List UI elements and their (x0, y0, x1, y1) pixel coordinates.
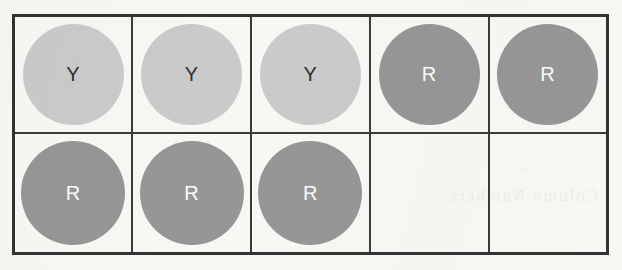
cell-inner (490, 134, 606, 252)
token-red[interactable]: R (497, 24, 598, 125)
table-row: Y Y Y R (14, 16, 608, 133)
token-yellow[interactable]: Y (141, 24, 242, 125)
grid-cell-r1c4[interactable] (489, 133, 608, 254)
grid-cell-r1c0[interactable]: R (14, 133, 133, 254)
cell-inner: Y (15, 17, 131, 132)
grid-cell-r1c3[interactable] (370, 133, 489, 254)
token-grid: Y Y Y R (12, 14, 609, 255)
token-yellow[interactable]: Y (23, 24, 124, 125)
token-red[interactable]: R (379, 24, 480, 125)
cell-inner: R (15, 134, 131, 252)
cell-inner: Y (133, 17, 250, 132)
cell-inner: R (252, 134, 369, 252)
cell-inner: R (490, 17, 606, 132)
grid-cell-r1c2[interactable]: R (251, 133, 370, 254)
token-red[interactable]: R (258, 141, 362, 245)
cell-inner: R (371, 17, 488, 132)
grid-cell-r1c1[interactable]: R (132, 133, 251, 254)
cell-inner (371, 134, 488, 252)
grid-cell-r0c1[interactable]: Y (132, 16, 251, 133)
cell-inner: R (133, 134, 250, 252)
token-red[interactable]: R (140, 141, 244, 245)
token-red[interactable]: R (21, 141, 125, 245)
token-grid-body: Y Y Y R (14, 16, 608, 254)
grid-cell-r0c0[interactable]: Y (14, 16, 133, 133)
table-row: R R R (14, 133, 608, 254)
grid-cell-r0c2[interactable]: Y (251, 16, 370, 133)
token-yellow[interactable]: Y (260, 24, 361, 125)
grid-cell-r0c4[interactable]: R (489, 16, 608, 133)
cell-inner: Y (252, 17, 369, 132)
grid-cell-r0c3[interactable]: R (370, 16, 489, 133)
token-grid-container: Y Y Y R (12, 14, 609, 255)
